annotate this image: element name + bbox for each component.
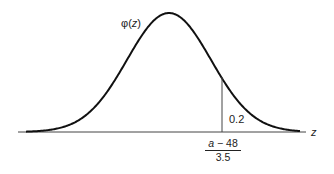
fraction-numerator: a − 48 xyxy=(205,138,241,151)
tail-area-label: 0.2 xyxy=(229,114,244,125)
cutoff-fraction-label: a − 48 3.5 xyxy=(205,138,241,163)
chart-canvas xyxy=(0,0,334,174)
z-axis-label: z xyxy=(311,127,317,138)
fraction-denominator: 3.5 xyxy=(205,151,241,163)
density-curve xyxy=(26,13,300,132)
normal-distribution-figure: φ(z) 0.2 z a − 48 3.5 xyxy=(0,0,334,174)
phi-label: φ(z) xyxy=(121,18,141,29)
